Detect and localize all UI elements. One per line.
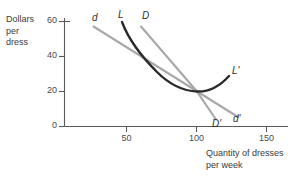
y-tick-label-0: 0: [36, 121, 57, 130]
curve-label-d-capital-prime: D': [212, 119, 221, 129]
y-tick-label-20: 20: [36, 86, 57, 95]
y-tick-label-60: 60: [36, 16, 57, 25]
x-tick-label-50: 50: [112, 134, 141, 143]
curve-l-longrun: [122, 22, 229, 92]
curve-d-small: [94, 27, 239, 118]
y-axis-title-line-2: per: [6, 26, 52, 38]
curve-label-l-prime: L': [232, 66, 239, 76]
x-axis-title-line-1: Quantity of dresses: [206, 148, 284, 160]
curve-label-d-small-prime: d': [233, 114, 240, 124]
curve-label-d-capital: D: [142, 11, 149, 21]
y-axis-title-line-3: dress: [6, 37, 52, 49]
x-axis-title-line-2: per week: [206, 160, 284, 172]
x-tick-label-100: 100: [182, 134, 211, 143]
curve-label-l: L: [118, 10, 124, 20]
curve-label-d-small: d: [92, 13, 98, 23]
y-tick-label-40: 40: [36, 51, 57, 60]
x-tick-label-150: 150: [252, 134, 281, 143]
x-axis-title: Quantity of dresses per week: [206, 148, 284, 171]
curve-d-capital: [141, 27, 216, 120]
economics-chart-figure: Dollars per dress 60 40 20 0 50 100 150 …: [0, 0, 304, 176]
